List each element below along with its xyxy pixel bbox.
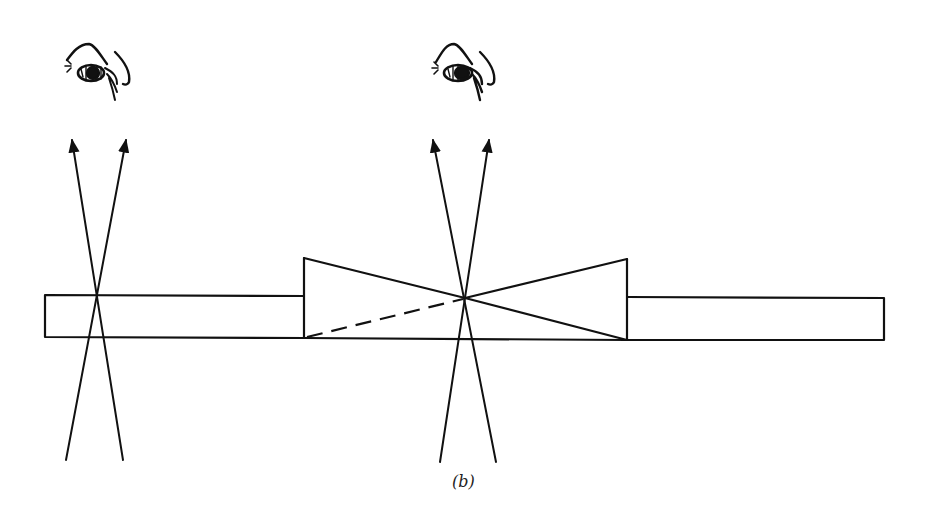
wedge-diagonal-bottom-right (465, 298, 627, 340)
wedge-diagonal-top-right (465, 259, 627, 298)
wedge-diagonal-top-left (304, 258, 465, 298)
figure-caption: (b) (452, 472, 475, 491)
wedge-base-line (304, 338, 627, 340)
wedge-hidden-edge-dashed (307, 299, 463, 337)
optics-diagram (0, 0, 929, 514)
left-ray-b (66, 140, 126, 460)
left-slab (45, 295, 304, 338)
center-ray-pair (433, 140, 496, 462)
left-ray-pair (66, 140, 126, 460)
eye-icon (432, 44, 494, 100)
right-slab (627, 297, 884, 340)
eye-icon (65, 44, 129, 100)
left-ray-a (72, 140, 123, 460)
center-ray-b (440, 140, 489, 462)
